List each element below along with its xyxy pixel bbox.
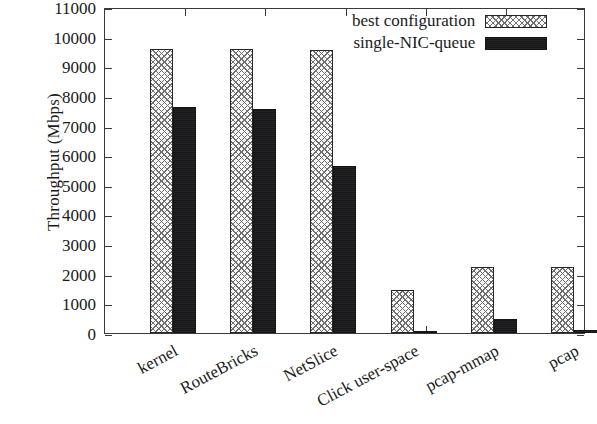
y-tick-mark-right <box>577 335 584 336</box>
y-tick-mark <box>105 9 112 10</box>
y-tick-label: 8000 <box>14 89 96 106</box>
bar-best-configuration <box>551 267 574 333</box>
bar-single-nic-queue <box>494 319 517 333</box>
plot-area <box>104 8 585 334</box>
y-tick-label: 1000 <box>14 296 96 313</box>
legend-entry: single-NIC-queue <box>352 32 547 54</box>
y-tick-label: 4000 <box>14 207 96 224</box>
bar-best-configuration <box>391 290 414 333</box>
bar-single-nic-queue <box>173 107 196 333</box>
legend-label: best configuration <box>352 11 475 31</box>
solid-swatch <box>485 37 547 50</box>
y-tick-label: 7000 <box>14 119 96 136</box>
y-tick-mark <box>105 68 112 69</box>
y-tick-mark <box>105 305 112 306</box>
y-tick-mark-right <box>577 68 584 69</box>
chart-legend: best configuration single-NIC-queue <box>352 10 547 54</box>
legend-entry: best configuration <box>352 10 547 32</box>
y-tick-mark <box>105 157 112 158</box>
y-tick-mark-right <box>577 187 584 188</box>
y-tick-mark-right <box>577 216 584 217</box>
y-tick-label: 6000 <box>14 148 96 165</box>
y-tick-label: 9000 <box>14 59 96 76</box>
y-tick-mark <box>105 98 112 99</box>
y-tick-mark <box>105 335 112 336</box>
y-tick-label: 10000 <box>14 30 96 47</box>
bar-best-configuration <box>471 267 494 333</box>
bar-single-nic-queue <box>574 330 597 333</box>
y-tick-mark <box>105 187 112 188</box>
hatched-swatch <box>485 15 547 28</box>
bar-single-nic-queue <box>414 331 437 333</box>
y-tick-mark <box>105 246 112 247</box>
y-tick-mark-right <box>577 39 584 40</box>
bar-best-configuration <box>310 50 333 333</box>
legend-label: single-NIC-queue <box>353 33 475 53</box>
y-tick-mark-right <box>577 98 584 99</box>
y-tick-label: 0 <box>14 326 96 343</box>
y-tick-mark <box>105 39 112 40</box>
y-tick-mark <box>105 128 112 129</box>
x-tick-mark-top <box>185 9 186 16</box>
x-tick-mark-top <box>265 9 266 16</box>
y-tick-mark-right <box>577 305 584 306</box>
y-tick-mark-right <box>577 276 584 277</box>
bar-best-configuration <box>230 49 253 334</box>
y-tick-label: 5000 <box>14 178 96 195</box>
y-tick-mark-right <box>577 9 584 10</box>
bar-single-nic-queue <box>253 109 276 333</box>
bar-best-configuration <box>150 49 173 334</box>
y-tick-mark-right <box>577 157 584 158</box>
y-tick-mark-right <box>577 128 584 129</box>
y-tick-mark <box>105 216 112 217</box>
y-tick-mark <box>105 276 112 277</box>
y-tick-label: 2000 <box>14 267 96 284</box>
x-tick-mark-top <box>346 9 347 16</box>
y-tick-mark-right <box>577 246 584 247</box>
y-tick-label: 11000 <box>14 0 96 17</box>
y-tick-label: 3000 <box>14 237 96 254</box>
bar-single-nic-queue <box>333 166 356 333</box>
